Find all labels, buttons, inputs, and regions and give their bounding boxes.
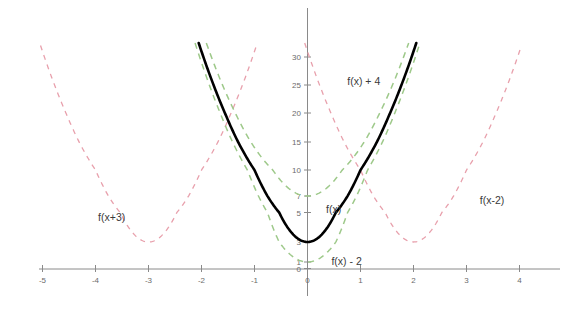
y-tick-label: 30 — [292, 53, 301, 62]
plot-background — [0, 0, 566, 309]
curve-label-f-x-2: f(x-2) — [480, 194, 505, 206]
x-tick-label: 1 — [358, 276, 363, 285]
y-tick-label: 15 — [292, 138, 301, 147]
x-tick-label: -2 — [198, 276, 206, 285]
y-tick-label: 10 — [292, 166, 301, 175]
x-tick-label: 3 — [464, 276, 469, 285]
y-tick-label: 20 — [292, 109, 301, 118]
y-tick-label: 5 — [297, 209, 302, 218]
x-tick-label: 2 — [411, 276, 416, 285]
curve-label-f-x-2: f(x) - 2 — [331, 255, 361, 267]
x-tick-label: -5 — [39, 276, 47, 285]
function-transformations-chart: -5-4-3-2-101234 013571015202530 f(x)f(x)… — [0, 0, 566, 309]
x-tick-label: 4 — [517, 276, 522, 285]
x-tick-label: -4 — [92, 276, 100, 285]
y-tick-label: 25 — [292, 81, 301, 90]
x-tick-label: 0 — [305, 276, 310, 285]
curve-label-f-x-4: f(x) + 4 — [347, 75, 380, 87]
curve-label-f-x-3: f(x+3) — [98, 211, 125, 223]
curve-label-f-x: f(x) — [326, 203, 341, 215]
y-tick-label: 1 — [297, 258, 302, 267]
x-tick-label: -3 — [145, 276, 153, 285]
x-tick-label: -1 — [251, 276, 259, 285]
